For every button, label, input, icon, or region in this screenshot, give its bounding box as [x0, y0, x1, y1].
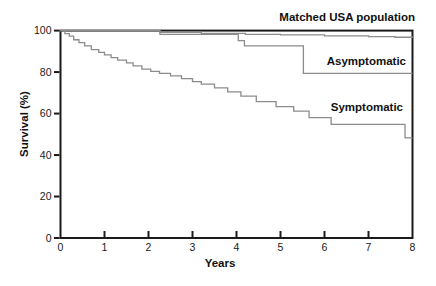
x-tick-label: 5 [278, 241, 284, 253]
curve-label-symptomatic: Symptomatic [331, 101, 403, 113]
survival-figure: 020406080100012345678 Matched USA popula… [0, 0, 436, 286]
y-tick-label: 80 [40, 66, 52, 78]
y-tick-label: 20 [40, 190, 52, 202]
x-tick-label: 3 [190, 241, 196, 253]
x-tick-label: 2 [146, 241, 152, 253]
curve-label-asymptomatic: Asymptomatic [327, 55, 406, 67]
x-tick-label: 1 [102, 241, 108, 253]
x-tick-label: 6 [322, 241, 328, 253]
x-tick-label: 4 [234, 241, 240, 253]
y-tick-label: 40 [40, 149, 52, 161]
curve-label-matched-usa-population: Matched USA population [279, 11, 415, 23]
x-tick-label: 8 [410, 241, 416, 253]
y-tick-label: 100 [34, 24, 52, 36]
x-tick-label: 0 [58, 241, 64, 253]
x-axis-label: Years [190, 257, 250, 269]
series-symptomatic [61, 31, 413, 138]
survival-chart: 020406080100012345678 [0, 0, 436, 286]
y-axis-label: Survival (%) [18, 91, 30, 157]
y-tick-label: 60 [40, 107, 52, 119]
x-tick-label: 7 [366, 241, 372, 253]
y-tick-label: 0 [46, 232, 52, 244]
